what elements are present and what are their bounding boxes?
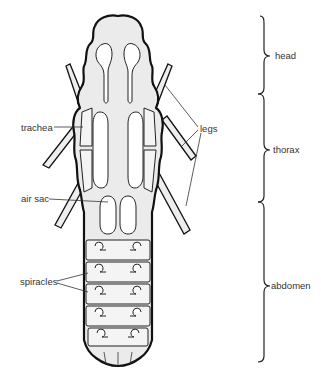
label-trachea: trachea: [21, 122, 53, 133]
legs-pointer-3: [186, 133, 201, 206]
segment-3: [86, 284, 150, 304]
larva-diagram: trachea air sac spiracles legs head thor…: [0, 0, 321, 374]
right-leg-2: [162, 116, 196, 160]
segment-2: [86, 262, 150, 282]
segment-5: [88, 328, 148, 346]
region-label-abdomen: abdomen: [271, 280, 311, 291]
air-sac-right-lower: [120, 196, 136, 234]
right-lateral-cell-1: [144, 108, 156, 146]
label-air-sac: air sac: [21, 193, 49, 204]
segment-1: [86, 240, 150, 260]
air-sac-left-large: [93, 112, 108, 188]
label-legs: legs: [200, 123, 218, 134]
brace-abdomen: [258, 202, 270, 362]
brace-head: [258, 16, 270, 94]
air-sac-right-large: [128, 112, 143, 188]
region-label-thorax: thorax: [273, 144, 300, 155]
legs-pointer-2: [182, 130, 198, 146]
label-spiracles: spiracles: [20, 276, 58, 287]
segment-4: [86, 306, 150, 326]
region-braces: [258, 16, 270, 362]
region-label-head: head: [275, 50, 296, 61]
brace-thorax: [258, 94, 270, 202]
